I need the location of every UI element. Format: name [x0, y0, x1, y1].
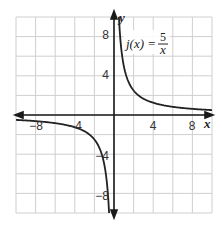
x-tick-label: 8: [189, 119, 196, 133]
plot-svg: −8 −4 4 8 8 4 −4 −8 x y j(x) = 5 x: [0, 0, 222, 227]
y-tick-label: 8: [102, 28, 109, 42]
function-label-denominator: x: [159, 42, 166, 57]
x-tick-label: −4: [68, 119, 82, 133]
y-tick-label: −4: [95, 149, 109, 163]
y-axis-down-arrow-icon: [111, 210, 117, 218]
rational-function-graph: −8 −4 4 8 8 4 −4 −8 x y j(x) = 5 x: [0, 0, 222, 227]
y-tick-label: 4: [102, 68, 109, 82]
y-axis-up-arrow-icon: [111, 11, 117, 19]
x-tick-label: 4: [150, 119, 157, 133]
function-label-prefix: j(x) =: [124, 36, 156, 51]
y-tick-label: −8: [95, 189, 109, 203]
function-label: j(x) = 5 x: [124, 30, 170, 57]
x-axis-label: x: [203, 116, 211, 131]
y-axis-label: y: [117, 10, 125, 25]
x-tick-label: −8: [29, 119, 43, 133]
